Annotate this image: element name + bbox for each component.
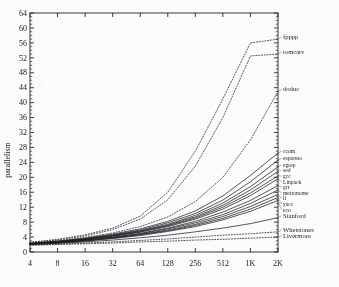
- legend-label-tomcatv: tomcatv: [283, 48, 305, 55]
- y-tick-label: 32: [19, 128, 27, 137]
- y-tick-label: 4: [23, 233, 27, 242]
- y-tick-label: 0: [23, 248, 27, 257]
- legend-label-metronome: metronome: [283, 190, 309, 196]
- y-tick-label: 56: [19, 39, 27, 48]
- y-tick-label: 60: [19, 24, 27, 33]
- x-tick-label: 16: [81, 259, 89, 268]
- parallelism-figure: 0481216202428323640444852566064 48163264…: [0, 0, 339, 287]
- y-tick-label: 36: [19, 113, 27, 122]
- y-tick-label: 12: [19, 203, 27, 212]
- y-tick-label: 48: [19, 68, 27, 77]
- y-tick-label: 52: [19, 54, 27, 63]
- y-tick-label: 44: [19, 83, 27, 92]
- legend-label-stanford: Stanford: [283, 212, 306, 219]
- y-tick-label: 8: [23, 218, 27, 227]
- legend-label-livermore: Livermore: [283, 232, 311, 239]
- y-tick-label: 20: [19, 173, 27, 182]
- y-tick-label: 64: [19, 9, 27, 18]
- y-tick-label: 40: [19, 98, 27, 107]
- legend-label-ccom: ccom: [283, 148, 296, 154]
- legend-label-espresso: espresso: [283, 155, 302, 161]
- x-tick-label: 64: [136, 259, 144, 268]
- y-axis-title: parallelism: [3, 141, 12, 177]
- y-tick-label: 28: [19, 143, 27, 152]
- x-tick-label: 256: [189, 259, 201, 268]
- x-tick-label: 8: [56, 259, 60, 268]
- y-tick-label: 24: [19, 158, 27, 167]
- x-tick-label: 2K: [273, 259, 283, 268]
- x-tick-label: 32: [109, 259, 117, 268]
- legend-label-doduc: doduc: [283, 85, 299, 92]
- y-tick-label: 16: [19, 188, 27, 197]
- chart-svg: 0481216202428323640444852566064 48163264…: [0, 0, 339, 287]
- x-tick-label: 512: [217, 259, 229, 268]
- x-tick-label: 128: [162, 259, 174, 268]
- x-tick-label: 4: [28, 259, 32, 268]
- legend-label-fpppp: fpppp: [283, 33, 299, 40]
- x-tick-label: 1K: [246, 259, 256, 268]
